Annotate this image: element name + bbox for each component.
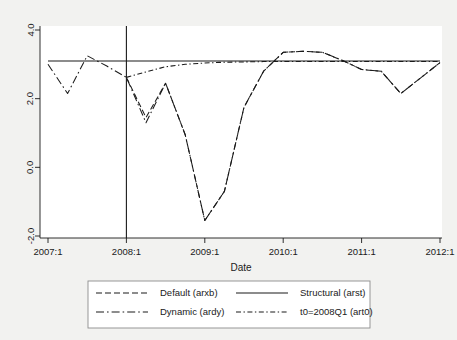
x-axis-title: Date: [230, 262, 252, 273]
y-tick-group: 4.02.00.0-2.0: [25, 23, 41, 244]
x-tick-group: 2007:12008:12009:12010:12011:12012:1: [33, 238, 454, 257]
legend: Default (arxb)Structural (arst)Dynamic (…: [88, 281, 373, 328]
y-tick-label: 0.0: [25, 161, 36, 174]
y-tick-label: 4.0: [25, 23, 36, 36]
y-tick-label: -2.0: [25, 228, 36, 244]
x-tick-label: 2012:1: [425, 246, 454, 257]
x-tick-label: 2011:1: [347, 246, 375, 257]
legend-label: Default (arxb): [160, 287, 218, 298]
legend-label: Structural (arst): [300, 287, 365, 298]
y-tick-label: 2.0: [25, 92, 36, 105]
chart-container: 4.02.00.0-2.0 2007:12008:12009:12010:120…: [0, 0, 457, 340]
x-tick-label: 2009:1: [190, 246, 219, 257]
legend-label: Dynamic (ardy): [160, 306, 224, 317]
legend-label: t0=2008Q1 (art0): [300, 306, 373, 317]
plot-area-background: [40, 26, 442, 238]
forecast-line-chart: 4.02.00.0-2.0 2007:12008:12009:12010:120…: [0, 0, 457, 340]
x-tick-label: 2010:1: [269, 246, 298, 257]
x-tick-label: 2007:1: [33, 246, 62, 257]
x-tick-label: 2008:1: [112, 246, 141, 257]
